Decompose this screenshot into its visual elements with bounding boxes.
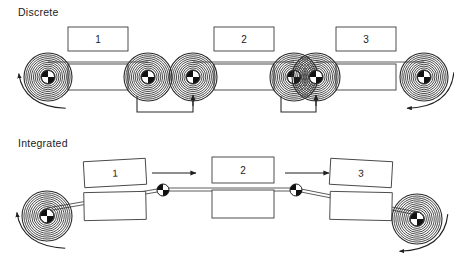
integrated-station-3-top-box-number: 3 — [358, 167, 365, 178]
diagram-canvas: Discrete Integrated 123 123 — [0, 0, 454, 256]
integrated-station-3-top-box: 3 — [329, 158, 392, 187]
discrete-station-1-top-box-number: 1 — [95, 34, 101, 45]
discrete-station-1-bottom-box — [68, 64, 128, 90]
discrete-station-2-top-box-number: 2 — [241, 34, 247, 45]
section-label-discrete: Discrete — [18, 6, 59, 18]
integrated-station-2-top-box-number: 2 — [240, 165, 246, 176]
integrated-idler-roller-1 — [157, 184, 169, 196]
discrete-spool-3 — [169, 53, 217, 101]
integrated-station-1-bottom-box — [84, 191, 147, 220]
discrete-station-2-bottom-box — [214, 64, 274, 90]
discrete-station-1-top-box: 1 — [68, 27, 128, 51]
integrated-station-1-top-box: 1 — [83, 158, 146, 187]
discrete-spool-5 — [292, 53, 340, 101]
integrated-station-3-bottom-box — [330, 191, 393, 220]
integrated-spool-unwind — [22, 191, 72, 241]
integrated-station-2-bottom-box — [212, 190, 274, 218]
discrete-station-3-top-box-number: 3 — [363, 34, 369, 45]
section-label-integrated: Integrated — [18, 137, 68, 149]
discrete-station-3-top-box: 3 — [336, 27, 396, 51]
integrated-station-2-top-box: 2 — [212, 157, 274, 183]
integrated-idler-roller-2 — [290, 184, 302, 196]
discrete-station-3-bottom-box — [336, 64, 396, 90]
process-diagram: Discrete Integrated 123 123 — [0, 0, 454, 256]
discrete-spool-2 — [124, 53, 172, 101]
discrete-spool-1 — [24, 53, 72, 101]
discrete-station-2-top-box: 2 — [214, 27, 274, 51]
integrated-spool-rewind — [392, 194, 442, 244]
integrated-station-1-top-box-number: 1 — [112, 167, 119, 178]
discrete-spool-6 — [400, 53, 448, 101]
